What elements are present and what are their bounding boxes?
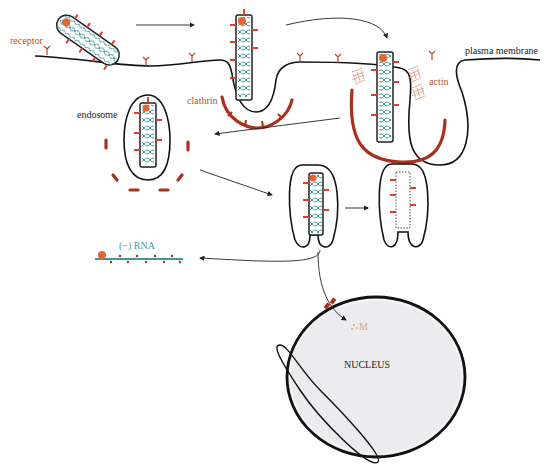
receptor-icon xyxy=(189,53,195,62)
virion-binding xyxy=(50,7,126,73)
receptor-icon xyxy=(297,53,303,62)
diagram-canvas: receptor plasma membrane clathrin actin … xyxy=(0,0,547,475)
label-receptor: receptor xyxy=(10,35,43,46)
receptor-icon xyxy=(143,57,149,66)
label-nucleus: NUCLEUS xyxy=(344,359,390,370)
virion-fusion xyxy=(289,165,337,247)
receptor-icon xyxy=(44,46,50,55)
label-clathrin: clathrin xyxy=(187,95,218,106)
empty-envelope xyxy=(379,164,428,247)
receptor-icon xyxy=(429,51,435,60)
nucleus xyxy=(277,297,465,463)
endosome xyxy=(106,95,188,190)
label-rna: (−) RNA xyxy=(119,240,156,252)
virion-actin-invagination xyxy=(351,52,445,162)
actin-icon xyxy=(352,68,365,84)
label-plasma-membrane: plasma membrane xyxy=(465,45,539,56)
actin-icon xyxy=(412,84,425,100)
receptor-icon xyxy=(335,54,341,63)
diagram-svg: receptor plasma membrane clathrin actin … xyxy=(0,0,547,475)
label-m-protein: M xyxy=(359,321,368,332)
label-endosome: endosome xyxy=(77,109,118,120)
negative-rna xyxy=(95,251,183,263)
label-actin: actin xyxy=(429,76,448,87)
